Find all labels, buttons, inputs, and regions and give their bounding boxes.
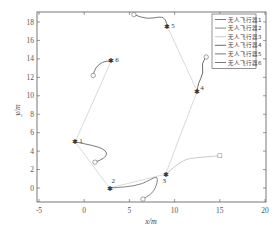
- legend-label: 无人飞行器4: [228, 41, 262, 49]
- uav-label-6: 6: [115, 56, 119, 64]
- y-tick-label: 8: [30, 110, 34, 119]
- x-tick-label: 15: [216, 206, 224, 215]
- end-marker-star: ✱: [164, 23, 170, 31]
- start-marker-circle: [204, 55, 208, 59]
- end-marker-star: ✱: [108, 57, 114, 65]
- start-marker-circle: [93, 160, 97, 164]
- x-tick-label: 20: [261, 206, 269, 215]
- y-tick-label: 12: [27, 73, 35, 82]
- x-axis-label: x/m: [144, 217, 157, 226]
- legend-label: 无人飞行器6: [228, 59, 262, 67]
- end-marker-star: ✱: [72, 138, 78, 146]
- uav-label-1: 1: [79, 137, 83, 145]
- legend: 无人飞行器1无人飞行器2无人飞行器3无人飞行器4无人飞行器5无人飞行器6: [212, 14, 262, 69]
- legend-label: 无人飞行器3: [228, 33, 262, 41]
- x-tick-label: -5: [36, 206, 42, 215]
- x-tick-label: 0: [82, 206, 86, 215]
- legend-label: 无人飞行器2: [228, 24, 262, 32]
- start-marker-circle: [91, 73, 95, 77]
- start-marker-circle: [132, 12, 136, 16]
- y-tick-label: 14: [27, 54, 35, 63]
- uav-label-4: 4: [200, 84, 204, 92]
- trajectory-chart: ✱✱✱✱✱✱123456 -505101520 024681012141618 …: [0, 0, 279, 235]
- y-tick-label: 10: [27, 91, 35, 100]
- y-tick-label: 4: [30, 147, 34, 156]
- uav-label-5: 5: [171, 22, 175, 30]
- x-tick-label: 10: [171, 206, 179, 215]
- end-marker-star: ✱: [107, 185, 113, 193]
- y-tick-label: 2: [30, 165, 34, 174]
- legend-label: 无人飞行器1: [228, 16, 262, 24]
- legend-label: 无人飞行器5: [228, 50, 262, 58]
- start-marker-circle: [141, 197, 145, 201]
- uav-label-3: 3: [163, 177, 167, 185]
- y-tick-label: 0: [30, 184, 34, 193]
- x-tick-label: 5: [128, 206, 132, 215]
- start-marker-square: [218, 154, 222, 158]
- y-axis-label: y/m: [13, 104, 22, 117]
- y-tick-label: 16: [27, 36, 35, 45]
- y-tick-label: 6: [30, 128, 34, 137]
- uav-label-2: 2: [112, 177, 116, 185]
- y-tick-label: 18: [27, 18, 35, 27]
